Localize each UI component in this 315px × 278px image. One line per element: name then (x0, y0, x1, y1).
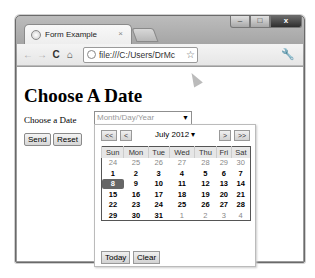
tab-title: Form Example (45, 30, 97, 39)
calendar-day[interactable]: 9 (124, 179, 148, 190)
weekday-header: Fri (216, 147, 231, 158)
calendar-day[interactable]: 17 (148, 189, 169, 200)
calendar-day[interactable]: 31 (148, 210, 169, 221)
calendar-day[interactable]: 4 (169, 168, 194, 179)
weekday-header: Sun (102, 147, 124, 158)
weekday-header: Sat (231, 147, 250, 158)
calendar-day[interactable]: 22 (102, 200, 124, 211)
calendar-day[interactable]: 26 (148, 158, 169, 169)
minimize-button[interactable]: – (230, 16, 250, 28)
date-input[interactable]: Month/Day/Year ▼ (94, 111, 192, 125)
close-window-button[interactable]: x (270, 16, 302, 28)
bookmark-star-icon[interactable]: ☆ (186, 49, 197, 60)
calendar-day[interactable]: 3 (148, 168, 169, 179)
tab-close-icon[interactable]: × (118, 29, 123, 38)
calendar-day[interactable]: 16 (124, 189, 148, 200)
calendar-day[interactable]: 19 (195, 189, 217, 200)
calendar-day[interactable]: 23 (124, 200, 148, 211)
page-title: Choose A Date (24, 85, 142, 107)
calendar-week: 22232425262728 (102, 200, 251, 211)
calendar-day[interactable]: 25 (169, 200, 194, 211)
reload-icon[interactable]: C (49, 49, 63, 60)
weekday-header: Thu (195, 147, 217, 158)
next-month-button[interactable]: > (219, 130, 231, 141)
calendar-day[interactable]: 5 (195, 168, 217, 179)
calendar-day-selected[interactable]: 8 (102, 179, 124, 190)
forward-arrow-icon[interactable]: → (35, 49, 49, 60)
calendar-day[interactable]: 11 (169, 179, 194, 190)
calendar-day[interactable]: 28 (195, 158, 217, 169)
calendar-day[interactable]: 6 (216, 168, 231, 179)
calendar-day[interactable]: 10 (148, 179, 169, 190)
reset-button[interactable]: Reset (53, 133, 82, 146)
wrench-icon[interactable]: 🔧 (281, 48, 295, 61)
calendar-day[interactable]: 29 (216, 158, 231, 169)
calendar-week: 24252627282930 (102, 158, 251, 169)
next-year-button[interactable]: >> (234, 130, 250, 141)
url-text[interactable]: file:///C:/Users/DrMc (99, 50, 186, 60)
month-year-selector[interactable]: July 2012 ▾ (155, 130, 195, 139)
browser-toolbar: ← → C ⌂ file:///C:/Users/DrMc ☆ 🔧 (17, 44, 303, 66)
calendar-day[interactable]: 13 (216, 179, 231, 190)
back-arrow-icon[interactable]: ← (21, 49, 35, 60)
calendar-day[interactable]: 7 (231, 168, 250, 179)
tab-form-example[interactable]: Form Example × (24, 24, 132, 44)
calendar-day[interactable]: 1 (169, 210, 194, 221)
calendar-day[interactable]: 21 (231, 189, 250, 200)
calendar-week: 891011121314 (102, 179, 251, 190)
home-icon[interactable]: ⌂ (63, 49, 77, 60)
calendar-day[interactable]: 28 (231, 200, 250, 211)
calendar-day[interactable]: 1 (102, 168, 124, 179)
globe-icon (31, 30, 41, 40)
weekday-header: Wed (169, 147, 194, 158)
calendar-day[interactable]: 27 (216, 200, 231, 211)
calendar-day[interactable]: 3 (216, 210, 231, 221)
new-tab-button[interactable] (131, 28, 158, 42)
date-label: Choose a Date (24, 115, 76, 125)
calendar-day[interactable]: 4 (231, 210, 250, 221)
calendar-week: 1234567 (102, 168, 251, 179)
today-button[interactable]: Today (101, 251, 130, 264)
prev-month-button[interactable]: < (120, 130, 132, 141)
date-placeholder: Month/Day/Year (97, 113, 154, 122)
address-bar[interactable]: file:///C:/Users/DrMc ☆ (83, 47, 198, 63)
calendar-day[interactable]: 29 (102, 210, 124, 221)
weekday-header: Mon (124, 147, 148, 158)
calendar-day[interactable]: 30 (231, 158, 250, 169)
calendar-day[interactable]: 20 (216, 189, 231, 200)
calendar-day[interactable]: 24 (102, 158, 124, 169)
maximize-button[interactable]: □ (250, 16, 270, 28)
calendar-week: 2930311234 (102, 210, 251, 221)
calendar-day[interactable]: 18 (169, 189, 194, 200)
calendar-week: 15161718192021 (102, 189, 251, 200)
calendar-grid: SunMonTueWedThuFriSat 242526272829301234… (101, 146, 251, 221)
datepicker-popup: << < July 2012 ▾ > >> SunMonTueWedThuFri… (94, 124, 256, 267)
page-content: Choose A Date Choose a Date Month/Day/Ye… (17, 67, 303, 261)
calendar-day[interactable]: 26 (195, 200, 217, 211)
chevron-down-icon[interactable]: ▼ (182, 112, 189, 124)
window-controls: – □ x (230, 16, 302, 28)
calendar-day[interactable]: 12 (195, 179, 217, 190)
calendar-day[interactable]: 27 (169, 158, 194, 169)
weekday-header: Tue (148, 147, 169, 158)
prev-year-button[interactable]: << (101, 130, 117, 141)
calendar-day[interactable]: 15 (102, 189, 124, 200)
calendar-day[interactable]: 25 (124, 158, 148, 169)
calendar-day[interactable]: 14 (231, 179, 250, 190)
browser-window: – □ x Form Example × ← → C ⌂ file:///C:/… (15, 15, 305, 263)
send-button[interactable]: Send (24, 133, 51, 146)
calendar-day[interactable]: 2 (195, 210, 217, 221)
calendar-day[interactable]: 24 (148, 200, 169, 211)
clear-button[interactable]: Clear (133, 251, 160, 264)
calendar-day[interactable]: 30 (124, 210, 148, 221)
page-info-icon (87, 50, 96, 59)
calendar-day[interactable]: 2 (124, 168, 148, 179)
